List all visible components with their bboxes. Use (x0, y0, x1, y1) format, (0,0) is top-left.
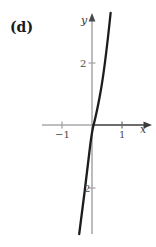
x-tick-label-pos1: 1 (119, 129, 125, 140)
coordinate-plot: y x −1 1 2 2 (0, 0, 156, 247)
y-axis-arrow-icon (89, 13, 96, 22)
y-tick-label-pos2: 2 (80, 58, 86, 69)
y-tick-label-neg2: 2 (84, 183, 90, 194)
x-tick-label-neg1: −1 (55, 129, 70, 140)
curve-path (79, 13, 110, 234)
y-axis-label: y (80, 14, 88, 27)
figure-panel: (d) y x −1 1 2 2 (0, 0, 156, 247)
x-axis-label: x (140, 123, 147, 136)
